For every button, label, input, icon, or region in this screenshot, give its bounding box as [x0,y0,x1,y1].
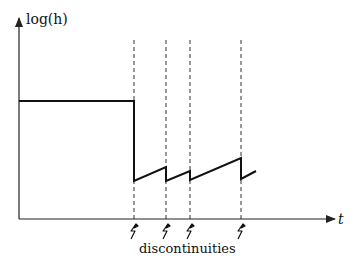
log-h-curve [19,101,256,181]
discontinuity-lines [134,40,241,219]
lightning-icon [163,224,170,239]
lightning-markers [131,224,245,239]
lightning-icon [238,224,245,239]
log-h-vs-time-diagram: log(h) t discontinuities [0,0,356,269]
y-axis-label: log(h) [26,11,68,27]
x-axis-label: t [338,211,344,227]
lightning-icon [187,224,194,239]
discontinuities-label: discontinuities [139,241,236,256]
lightning-icon [131,224,138,239]
